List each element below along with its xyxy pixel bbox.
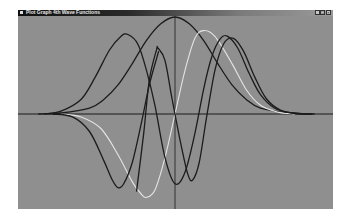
close-button[interactable]: × bbox=[326, 10, 331, 15]
window-title: Plot Graph 4th Wave Functions bbox=[26, 9, 100, 16]
curve-dark-odd bbox=[53, 52, 159, 188]
plot-area bbox=[18, 16, 333, 209]
wave-function-chart bbox=[18, 16, 333, 209]
series-layer bbox=[38, 17, 314, 198]
maximize-button[interactable]: □ bbox=[320, 10, 325, 15]
app-window: Plot Graph 4th Wave Functions _ □ × bbox=[18, 10, 333, 209]
curve-dark-narrow bbox=[137, 38, 315, 192]
app-icon[interactable] bbox=[20, 11, 23, 14]
